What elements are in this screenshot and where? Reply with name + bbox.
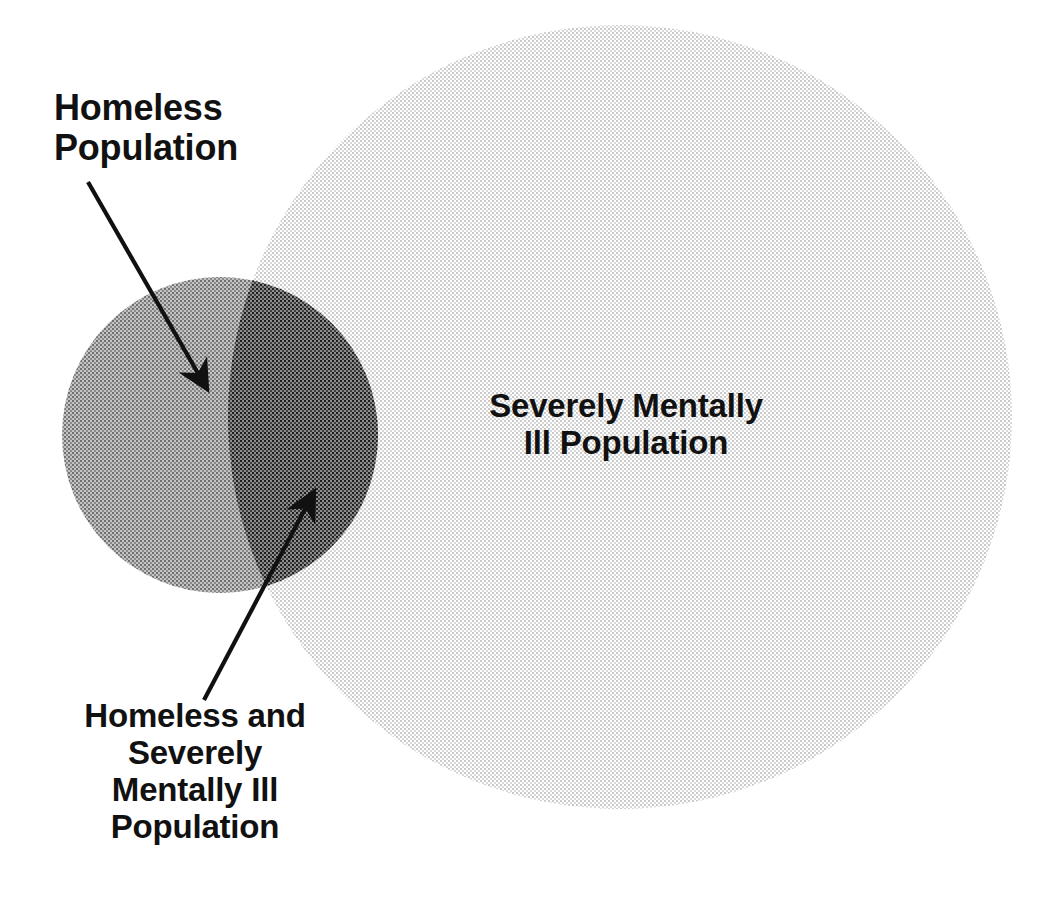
- label-severely-mentally-ill-population: Severely Mentally Ill Population: [446, 388, 806, 462]
- venn-diagram-figure: Homeless Population Severely Mentally Il…: [0, 0, 1049, 911]
- label-homeless-population: Homeless Population: [54, 88, 238, 169]
- label-homeless-and-severely-mentally-ill-population: Homeless and Severely Mentally Ill Popul…: [60, 698, 330, 846]
